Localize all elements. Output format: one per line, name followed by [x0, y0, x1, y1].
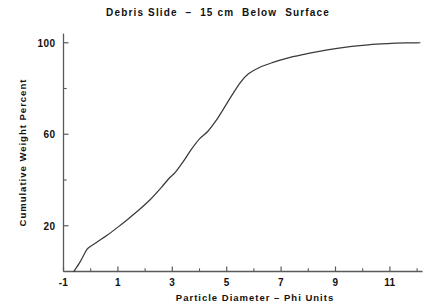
chart-figure: Debris Slide – 15 cm Below Surface -1135…	[0, 0, 436, 306]
y-axis-tick-label: 100	[38, 38, 56, 49]
cumulative-curve-line	[74, 43, 420, 272]
cumulative-curve-plot: -113579112060100 Particle Diameter – Phi…	[0, 0, 436, 306]
axes-group	[64, 34, 423, 272]
x-axis-tick-label: 3	[169, 277, 175, 288]
axis-titles-group: Particle Diameter – Phi UnitsCumulative …	[17, 79, 334, 303]
x-axis-tick-label: 1	[115, 277, 121, 288]
data-series-group	[74, 43, 420, 272]
y-axis-tick-label: 60	[44, 129, 56, 140]
y-axis-title: Cumulative Weight Percent	[17, 79, 28, 227]
x-axis-tick-label: 7	[278, 277, 284, 288]
x-axis-tick-label: 9	[333, 277, 339, 288]
y-axis-tick-label: 20	[44, 221, 56, 232]
x-axis-title: Particle Diameter – Phi Units	[176, 292, 334, 303]
x-axis-tick-label: -1	[59, 277, 69, 288]
x-axis-tick-label: 5	[224, 277, 230, 288]
tick-marks-group	[64, 43, 418, 272]
tick-labels-group: -113579112060100	[38, 38, 396, 288]
x-axis-tick-label: 11	[384, 277, 395, 288]
